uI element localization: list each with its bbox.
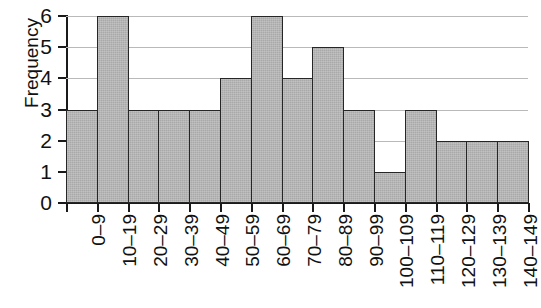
x-tick-label: 30–39 bbox=[182, 214, 201, 308]
bar bbox=[220, 78, 252, 203]
bar bbox=[128, 110, 160, 204]
x-tick-label: 10–19 bbox=[120, 214, 139, 308]
bar bbox=[282, 78, 314, 203]
x-tick-label: 0–9 bbox=[89, 214, 108, 308]
x-tick-mark bbox=[158, 203, 160, 212]
y-tick-label: 6 bbox=[26, 5, 52, 26]
x-tick-label: 90–99 bbox=[367, 214, 386, 308]
x-tick-mark bbox=[220, 203, 222, 212]
x-tick-mark bbox=[282, 203, 284, 212]
x-tick-mark bbox=[466, 203, 468, 212]
x-tick-mark bbox=[312, 203, 314, 212]
plot-area bbox=[66, 16, 528, 203]
bar bbox=[97, 16, 129, 203]
gridline bbox=[66, 47, 528, 48]
x-tick-mark bbox=[128, 203, 130, 212]
bar bbox=[374, 172, 406, 203]
x-tick-mark bbox=[374, 203, 376, 212]
bar bbox=[436, 141, 468, 203]
x-tick-mark bbox=[436, 203, 438, 212]
bar bbox=[158, 110, 190, 204]
x-tick-mark bbox=[251, 203, 253, 212]
y-tick-label: 0 bbox=[26, 192, 52, 213]
bar bbox=[66, 110, 98, 204]
x-tick-label: 130–139 bbox=[490, 214, 509, 308]
x-tick-label: 60–69 bbox=[274, 214, 293, 308]
x-tick-label: 140–149 bbox=[521, 214, 540, 308]
x-tick-mark bbox=[97, 203, 99, 212]
bar bbox=[405, 110, 437, 204]
x-tick-mark bbox=[189, 203, 191, 212]
x-tick-label: 110–119 bbox=[428, 214, 447, 308]
y-tick-label: 4 bbox=[26, 67, 52, 88]
y-tick-label: 1 bbox=[26, 161, 52, 182]
bar bbox=[312, 47, 344, 203]
x-tick-label: 20–29 bbox=[151, 214, 170, 308]
x-tick-label: 100–109 bbox=[397, 214, 416, 308]
x-tick-label: 40–49 bbox=[213, 214, 232, 308]
x-tick-mark bbox=[405, 203, 407, 212]
y-tick-label: 2 bbox=[26, 130, 52, 151]
bar bbox=[343, 110, 375, 204]
x-tick-label: 120–129 bbox=[459, 214, 478, 308]
x-tick-mark bbox=[528, 203, 530, 212]
gridline bbox=[66, 16, 528, 17]
bar bbox=[497, 141, 529, 203]
x-tick-mark bbox=[66, 203, 68, 212]
x-tick-mark bbox=[343, 203, 345, 212]
y-tick-label: 3 bbox=[26, 99, 52, 120]
y-tick-label: 5 bbox=[26, 36, 52, 57]
bar bbox=[189, 110, 221, 204]
x-tick-label: 80–89 bbox=[336, 214, 355, 308]
bar bbox=[251, 16, 283, 203]
bar bbox=[466, 141, 498, 203]
x-tick-label: 70–79 bbox=[305, 214, 324, 308]
x-tick-label: 50–59 bbox=[243, 214, 262, 308]
x-tick-mark bbox=[497, 203, 499, 212]
